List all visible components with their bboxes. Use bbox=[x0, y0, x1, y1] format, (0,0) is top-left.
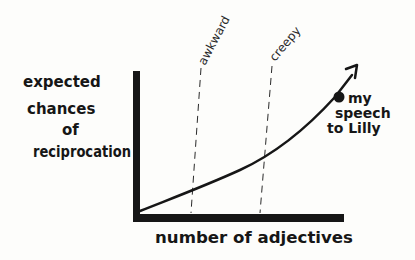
chart: awkward creepy my speech to Lilly expect… bbox=[0, 0, 415, 260]
reciprocation-curve bbox=[140, 75, 352, 211]
awkward-label: awkward bbox=[195, 13, 233, 67]
y-axis-label-line-3: of bbox=[62, 121, 79, 139]
creepy-label: creepy bbox=[267, 24, 304, 64]
y-axis bbox=[133, 71, 140, 222]
y-axis-label-line-2: chances bbox=[27, 100, 95, 118]
y-axis-label-line-4: reciprocation bbox=[33, 143, 131, 161]
annotation-line-1: my bbox=[348, 90, 372, 106]
x-axis bbox=[133, 214, 344, 222]
x-axis-label: number of adjectives bbox=[155, 228, 353, 247]
annotation-line-3: to Lilly bbox=[327, 120, 381, 136]
annotation-line-2: speech bbox=[335, 105, 391, 121]
creepy-threshold-line bbox=[260, 66, 272, 213]
y-axis-label-line-1: expected bbox=[23, 73, 101, 91]
my-speech-marker bbox=[334, 92, 345, 103]
